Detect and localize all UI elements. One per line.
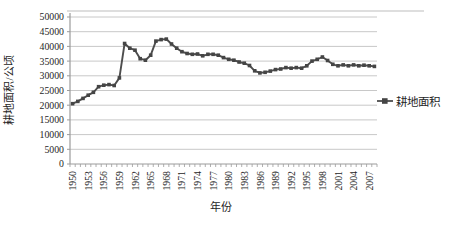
x-tick-label: 1962 [130,171,141,191]
chart-figure: 5000045000400003500030000250002000015000… [0,0,449,229]
data-point-marker [217,53,221,57]
y-tick-label: 30000 [40,70,65,81]
data-point-marker [118,76,122,80]
data-point-marker [170,42,174,46]
legend-marker-square [382,98,388,104]
data-point-marker [289,66,293,70]
data-point-marker [352,63,356,67]
y-tick-labels: 5000045000400003500030000250002000015000… [40,11,65,169]
data-point-marker [341,63,345,67]
data-point-marker [295,66,299,70]
x-tick-label: 1971 [176,171,187,191]
data-line [73,39,375,104]
data-point-marker [201,54,205,58]
data-point-marker [196,52,200,56]
data-point-marker [76,100,80,104]
data-point-marker [310,59,314,63]
y-tick-label: 5000 [44,144,64,155]
data-point-marker [263,71,267,75]
data-point-marker [123,42,127,46]
data-point-marker [279,67,283,71]
data-point-marker [336,64,340,68]
data-point-marker [138,57,142,61]
data-point-marker [284,66,288,70]
axes [70,13,377,164]
data-point-marker [258,71,262,75]
y-tick-label: 25000 [40,85,65,96]
data-point-marker [315,58,319,62]
data-point-marker [243,61,247,65]
data-point-marker [362,63,366,67]
data-point-marker [92,91,96,95]
x-tick-label: 1986 [255,171,266,191]
data-point-marker [175,46,179,50]
y-axis-title: 耕地面积/公顷 [2,55,15,124]
data-point-marker [128,46,132,50]
data-point-marker [326,59,330,63]
axis-ticks [67,17,377,167]
y-tick-label: 40000 [40,41,65,52]
legend: 耕地面积 [377,95,441,108]
data-point-marker [97,85,101,89]
data-point-marker [253,69,257,73]
data-point-marker [159,38,163,42]
x-tick-label: 1995 [301,171,312,191]
x-tick-label: 2007 [364,171,375,191]
legend-label: 耕地面积 [396,95,441,108]
x-tick-label: 1959 [114,171,125,191]
x-tick-label: 1950 [67,171,78,191]
x-tick-label: 1998 [317,171,328,191]
data-point-marker [71,102,75,106]
y-tick-label: 20000 [40,100,65,111]
x-axis-title: 年份 [210,200,232,213]
data-point-marker [305,64,309,68]
data-point-marker [112,84,116,88]
data-point-marker [347,64,351,68]
data-point-marker [357,64,361,68]
data-point-marker [86,93,90,97]
data-point-marker [180,50,184,54]
x-tick-label: 1989 [270,171,281,191]
data-point-marker [165,37,169,41]
y-tick-label: 0 [59,158,64,169]
data-point-marker [185,52,189,56]
x-tick-label: 1956 [98,171,109,191]
x-tick-label: 2001 [333,171,344,191]
x-tick-label: 1983 [239,171,250,191]
x-tick-label: 2004 [348,171,359,191]
data-point-marker [237,60,241,64]
y-tick-label: 45000 [40,26,65,37]
x-tick-label: 1977 [208,171,219,191]
data-point-marker [206,53,210,57]
y-tick-label: 15000 [40,114,65,125]
y-tick-label: 50000 [40,11,65,22]
data-point-marker [248,64,252,68]
y-tick-label: 35000 [40,56,65,67]
data-point-marker [331,63,335,67]
data-point-marker [222,56,226,60]
y-tick-label: 10000 [40,129,65,140]
x-tick-labels: 1950195319561959196219651968197119741977… [67,171,375,191]
x-tick-label: 1965 [145,171,156,191]
x-tick-label: 1980 [223,171,234,191]
data-point-marker [321,55,325,59]
data-point-marker [154,39,158,43]
data-point-marker [300,66,304,70]
data-point-marker [144,58,148,62]
x-tick-label: 1953 [83,171,94,191]
chart-svg: 5000045000400003500030000250002000015000… [0,0,449,229]
data-point-marker [133,48,137,52]
data-point-marker [269,69,273,73]
data-point-marker [373,65,377,69]
x-tick-label: 1992 [286,171,297,191]
data-point-marker [232,58,236,62]
data-point-marker [211,53,215,57]
data-point-marker [102,83,106,87]
data-point-marker [149,53,153,57]
x-tick-label: 1968 [161,171,172,191]
data-point-marker [274,68,278,72]
data-point-marker [107,83,111,87]
data-point-marker [191,53,195,57]
series-line [71,37,376,105]
data-point-marker [227,58,231,62]
